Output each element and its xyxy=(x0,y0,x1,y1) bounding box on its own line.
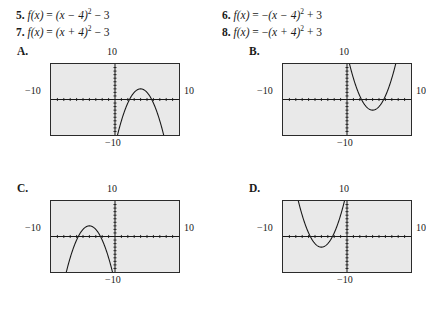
problem-5-rhs: − 3 xyxy=(92,9,110,21)
graph-b-parabola xyxy=(348,64,397,110)
graph-a-svg xyxy=(51,64,179,135)
problem-7-number: 7. xyxy=(16,26,25,38)
problem-6-lhs: (x − 4) xyxy=(268,9,300,21)
problem-8-expression: f(x) = −(x + 4)2 + 3 xyxy=(234,26,323,38)
graph-d-label-xmin: −10 xyxy=(257,223,273,233)
graph-b-label-ymin: −10 xyxy=(337,138,353,148)
problem-8-rhs: + 3 xyxy=(304,26,322,38)
graph-c-label-ymax: 10 xyxy=(107,184,117,194)
graph-b-label-xmin: −10 xyxy=(257,86,273,96)
graph-c-label-xmax: 10 xyxy=(184,223,194,233)
graph-b-svg xyxy=(283,64,411,135)
graph-c-axes xyxy=(51,201,179,272)
problem-7-fx: f(x) xyxy=(28,26,44,38)
graph-a-label-xmin: −10 xyxy=(25,86,41,96)
problem-7-lhs: (x + 4) xyxy=(56,26,88,38)
problem-8: 8. f(x) = −(x + 4)2 + 3 xyxy=(222,25,322,38)
graph-a-label-ymin: −10 xyxy=(105,138,121,148)
graph-b-label-ymax: 10 xyxy=(339,47,349,57)
graph-a-label-ymax: 10 xyxy=(107,47,117,57)
problem-7: 7. f(x) = (x + 4)2 − 3 xyxy=(16,25,110,38)
graph-d-axes xyxy=(283,201,411,272)
answer-choice-c-letter: C. xyxy=(17,183,28,195)
problem-8-equals: = xyxy=(252,26,259,38)
graph-b-screen xyxy=(282,63,412,136)
graph-c-screen xyxy=(50,200,180,273)
graph-d-parabola xyxy=(297,201,346,247)
graph-b-label-xmax: 10 xyxy=(416,86,426,96)
problem-5-fx: f(x) xyxy=(28,9,44,21)
graph-a-axes xyxy=(51,64,179,135)
problem-6-number: 6. xyxy=(222,9,231,21)
graph-d-svg xyxy=(283,201,411,272)
problem-6-expression: f(x) = −(x − 4)2 + 3 xyxy=(234,9,323,21)
problem-6-fx: f(x) xyxy=(234,9,250,21)
graph-a-parabola xyxy=(116,89,165,135)
problem-8-lhs: (x + 4) xyxy=(268,26,300,38)
problem-8-fx: f(x) xyxy=(234,26,250,38)
problem-6-rhs: + 3 xyxy=(304,9,322,21)
problem-5-lhs: (x − 4) xyxy=(56,9,88,21)
problem-5-expression: f(x) = (x − 4)2 − 3 xyxy=(28,9,110,21)
problem-5-equals: = xyxy=(46,9,53,21)
problem-8-number: 8. xyxy=(222,26,231,38)
problem-7-expression: f(x) = (x + 4)2 − 3 xyxy=(28,26,110,38)
problem-7-rhs: − 3 xyxy=(92,26,110,38)
answer-choice-d-letter: D. xyxy=(249,183,260,195)
answer-choice-b-letter: B. xyxy=(249,46,260,58)
graph-d-screen xyxy=(282,200,412,273)
graph-d-label-xmax: 10 xyxy=(416,223,426,233)
graph-b-axes xyxy=(283,64,411,135)
graph-a-label-xmax: 10 xyxy=(184,86,194,96)
graph-c-label-xmin: −10 xyxy=(25,223,41,233)
answer-choice-a-letter: A. xyxy=(17,46,28,58)
graph-a-screen xyxy=(50,63,180,136)
graph-d-label-ymin: −10 xyxy=(337,275,353,285)
problem-7-equals: = xyxy=(46,26,53,38)
problem-5-number: 5. xyxy=(16,9,25,21)
graph-c-svg xyxy=(51,201,179,272)
graph-d-label-ymax: 10 xyxy=(339,184,349,194)
problem-5: 5. f(x) = (x − 4)2 − 3 xyxy=(16,8,110,21)
problem-list: 5. f(x) = (x − 4)2 − 3 7. f(x) = (x + 4)… xyxy=(0,0,424,42)
graph-c-parabola xyxy=(65,226,114,272)
problem-6: 6. f(x) = −(x − 4)2 + 3 xyxy=(222,8,322,21)
problem-6-equals: = xyxy=(252,9,259,21)
graph-c-label-ymin: −10 xyxy=(105,275,121,285)
